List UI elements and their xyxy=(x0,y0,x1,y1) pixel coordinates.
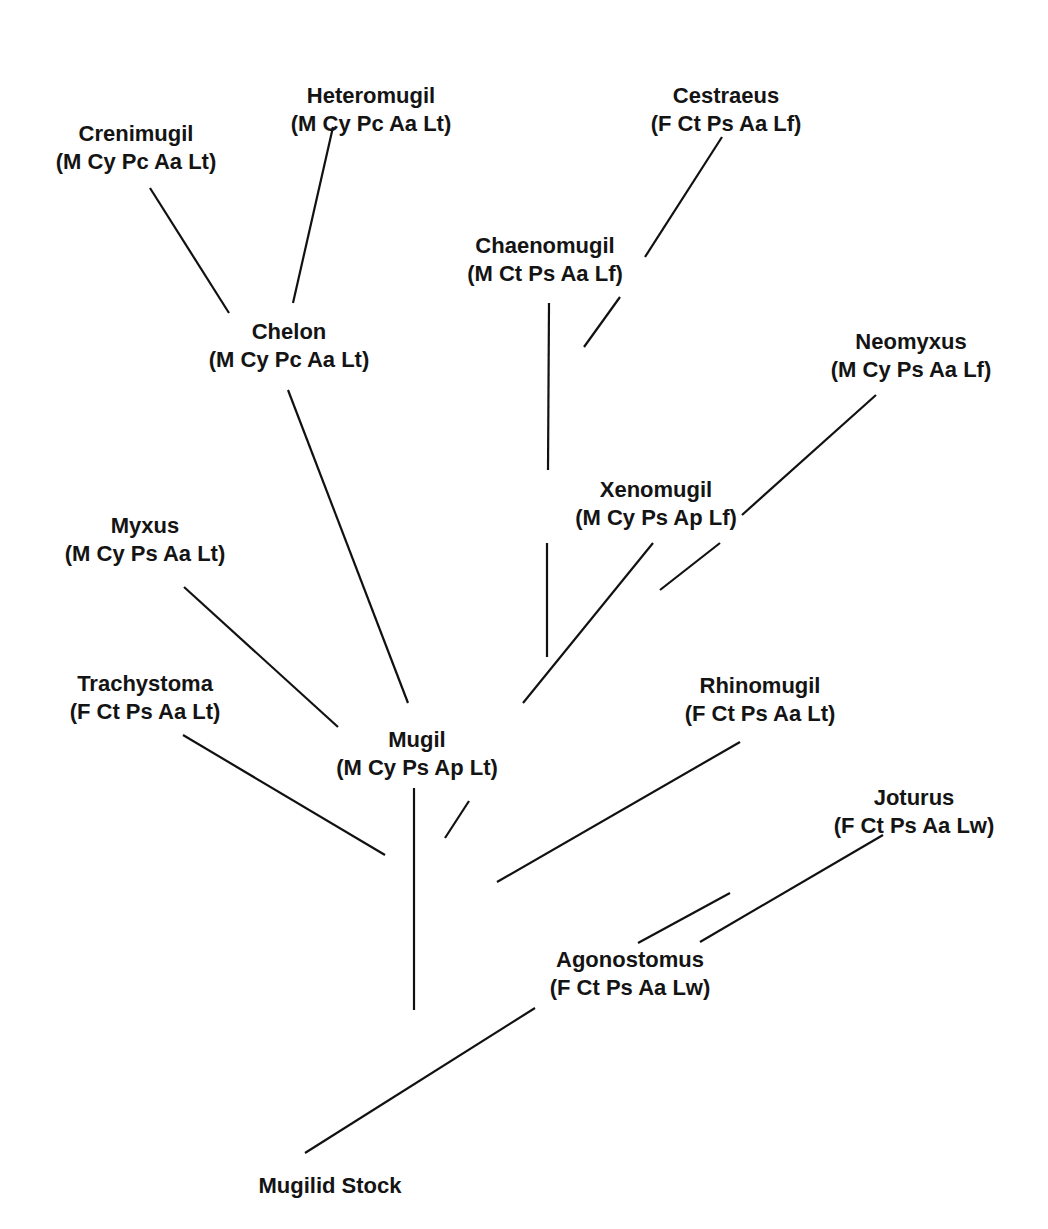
node-rhinomugil: Rhinomugil(F Ct Ps Aa Lt) xyxy=(685,672,836,728)
branch-xenomugil-mugil xyxy=(523,543,653,703)
node-joturus: Joturus(F Ct Ps Aa Lw) xyxy=(834,784,995,840)
node-traits: (F Ct Ps Aa Lw) xyxy=(834,812,995,840)
node-mugil: Mugil(M Cy Ps Ap Lt) xyxy=(336,726,498,782)
node-traits: (F Ct Ps Aa Lt) xyxy=(70,698,221,726)
node-traits: (M Cy Ps Ap Lt) xyxy=(336,754,498,782)
node-name: Trachystoma xyxy=(70,670,221,698)
branch-neomyxus-xenomugil-upper xyxy=(742,395,876,515)
node-name: Crenimugil xyxy=(56,120,217,148)
branch-cestraeus-chaenomugil xyxy=(584,297,620,347)
tree-branches xyxy=(0,0,1048,1229)
node-name: Cestraeus xyxy=(651,82,802,110)
branch-chelon-mugil xyxy=(288,390,408,703)
phylogenetic-tree-diagram: Heteromugil(M Cy Pc Aa Lt)Cestraeus(F Ct… xyxy=(0,0,1048,1229)
node-name: Agonostomus xyxy=(550,946,711,974)
branch-rhinomugil-junction xyxy=(497,742,740,882)
node-traits: (M Cy Pc Aa Lt) xyxy=(291,110,452,138)
node-traits: (M Cy Ps Aa Lt) xyxy=(65,540,226,568)
node-name: Heteromugil xyxy=(291,82,452,110)
branch-agonostomus-joturus xyxy=(700,835,883,942)
branch-agonostomus-joturus xyxy=(638,893,730,943)
node-chaenomugil: Chaenomugil(M Ct Ps Aa Lf) xyxy=(467,232,623,288)
branch-chaenomugil-xenomugil xyxy=(548,303,549,470)
node-crenimugil: Crenimugil(M Cy Pc Aa Lt) xyxy=(56,120,217,176)
node-myxus: Myxus(M Cy Ps Aa Lt) xyxy=(65,512,226,568)
node-mugilid_stock: Mugilid Stock xyxy=(259,1172,402,1200)
node-heteromugil: Heteromugil(M Cy Pc Aa Lt) xyxy=(291,82,452,138)
node-name: Neomyxus xyxy=(831,328,992,356)
node-name: Xenomugil xyxy=(575,476,737,504)
node-trachystoma: Trachystoma(F Ct Ps Aa Lt) xyxy=(70,670,221,726)
node-xenomugil: Xenomugil(M Cy Ps Ap Lf) xyxy=(575,476,737,532)
branch-neomyxus-xenomugil xyxy=(660,543,720,590)
branch-mugilid_stock-agonostomus xyxy=(305,1008,535,1153)
node-traits: (M Cy Pc Aa Lt) xyxy=(56,148,217,176)
node-name: Chaenomugil xyxy=(467,232,623,260)
node-traits: (F Ct Ps Aa Lt) xyxy=(685,700,836,728)
branch-cestraeus-chaenomugil-upper xyxy=(645,137,722,257)
node-agonostomus: Agonostomus(F Ct Ps Aa Lw) xyxy=(550,946,711,1002)
node-name: Mugil xyxy=(336,726,498,754)
node-traits: (F Ct Ps Aa Lf) xyxy=(651,110,802,138)
branch-heteromugil-chelon xyxy=(293,127,333,303)
node-name: Myxus xyxy=(65,512,226,540)
node-traits: (M Cy Ps Aa Lf) xyxy=(831,356,992,384)
branch-crenimugil-chelon xyxy=(150,188,229,313)
node-neomyxus: Neomyxus(M Cy Ps Aa Lf) xyxy=(831,328,992,384)
node-traits: (M Cy Ps Ap Lf) xyxy=(575,504,737,532)
branch-mugil-junction xyxy=(445,801,469,838)
node-traits: (F Ct Ps Aa Lw) xyxy=(550,974,711,1002)
node-name: Rhinomugil xyxy=(685,672,836,700)
node-name: Chelon xyxy=(209,318,370,346)
node-name: Mugilid Stock xyxy=(259,1172,402,1200)
node-cestraeus: Cestraeus(F Ct Ps Aa Lf) xyxy=(651,82,802,138)
node-traits: (M Ct Ps Aa Lf) xyxy=(467,260,623,288)
node-traits: (M Cy Pc Aa Lt) xyxy=(209,346,370,374)
node-name: Joturus xyxy=(834,784,995,812)
node-chelon: Chelon(M Cy Pc Aa Lt) xyxy=(209,318,370,374)
